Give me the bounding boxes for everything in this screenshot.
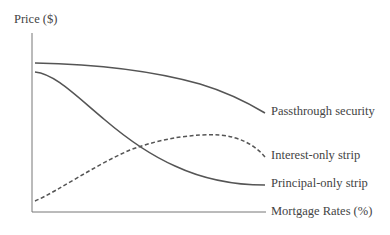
passthrough-security-label: Passthrough security	[271, 104, 375, 119]
principal-only-line	[35, 72, 265, 185]
passthrough-security-line	[35, 63, 265, 113]
x-axis-label: Mortgage Rates (%)	[271, 204, 372, 219]
interest-only-line	[35, 135, 265, 201]
principal-only-label: Principal-only strip	[271, 176, 368, 191]
interest-only-label: Interest-only strip	[271, 148, 360, 163]
